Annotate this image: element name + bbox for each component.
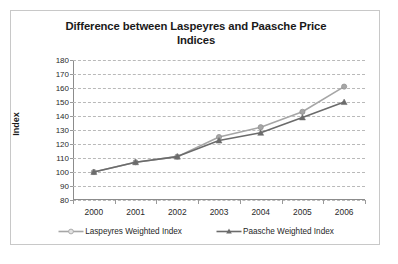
- y-tick-label: 160: [56, 84, 69, 93]
- x-tick-mark: [240, 200, 241, 204]
- x-tick-mark: [365, 200, 366, 204]
- y-tick-label: 110: [56, 154, 69, 163]
- x-tick-label: 2002: [168, 207, 187, 217]
- y-axis-title: Index: [11, 112, 21, 136]
- legend-swatch-circle-icon: [58, 227, 84, 236]
- legend-swatch-triangle-icon: [216, 227, 242, 236]
- data-point-marker: [258, 125, 263, 130]
- y-tick-label: 80: [60, 196, 69, 205]
- legend-item-laspeyres[interactable]: Laspeyres Weighted Index: [58, 227, 182, 236]
- y-tick-label: 100: [56, 168, 69, 177]
- chart-title-line-2: Indices: [37, 33, 355, 47]
- x-tick-mark: [282, 200, 283, 204]
- y-tick-label: 90: [60, 182, 69, 191]
- x-tick-mark: [323, 200, 324, 204]
- x-tick-label: 2000: [85, 207, 104, 217]
- x-tick-mark: [198, 200, 199, 204]
- legend-item-paasche[interactable]: Paasche Weighted Index: [216, 227, 334, 236]
- data-point-marker: [341, 99, 347, 105]
- data-point-marker: [342, 84, 347, 89]
- x-tick-label: 2003: [210, 207, 229, 217]
- y-tick-label: 180: [56, 56, 69, 65]
- data-point-marker: [300, 109, 305, 114]
- chart-title-line-1: Difference between Laspeyres and Paasche…: [37, 19, 355, 33]
- y-tick-label: 150: [56, 98, 69, 107]
- y-tick-label: 170: [56, 70, 69, 79]
- chart-legend: Laspeyres Weighted IndexPaasche Weighted…: [11, 227, 381, 236]
- series-line: [94, 87, 344, 172]
- x-tick-label: 2005: [293, 207, 312, 217]
- legend-label: Laspeyres Weighted Index: [85, 227, 182, 236]
- x-tick-mark: [73, 200, 74, 204]
- x-tick-label: 2001: [126, 207, 145, 217]
- series-circle: [91, 84, 346, 175]
- y-tick-label: 120: [56, 140, 69, 149]
- y-tick-label: 130: [56, 126, 69, 135]
- series-layer: [73, 60, 365, 200]
- x-tick-label: 2006: [335, 207, 354, 217]
- x-tick-mark: [156, 200, 157, 204]
- x-tick-label: 2004: [251, 207, 270, 217]
- chart-frame: Difference between Laspeyres and Paasche…: [10, 10, 380, 245]
- y-tick-label: 140: [56, 112, 69, 121]
- chart-title: Difference between Laspeyres and Paasche…: [37, 19, 355, 47]
- x-tick-mark: [115, 200, 116, 204]
- plot-area: 8090100110120130140150160170180 20002001…: [73, 60, 365, 200]
- gridline: [73, 200, 365, 201]
- legend-label: Paasche Weighted Index: [243, 227, 334, 236]
- plot-wrapper: 8090100110120130140150160170180 20002001…: [57, 56, 365, 203]
